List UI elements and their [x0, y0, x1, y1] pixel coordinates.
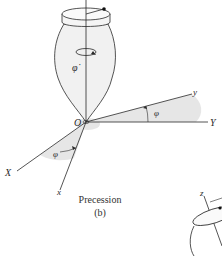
partial-top-body [190, 226, 194, 256]
precession-diagram: φ̇ O φ φ y Y X x Precession (b) z [0, 0, 222, 256]
origin-label: O [74, 117, 81, 128]
caption-label: (b) [94, 207, 106, 219]
axis-y-body-label: y [192, 87, 197, 97]
caption-title: Precession [79, 194, 122, 205]
top-body [55, 24, 116, 122]
partial-z-label: z [199, 188, 204, 198]
axis-x-body-label: x [56, 187, 61, 197]
axis-Y-fixed-label: Y [210, 117, 217, 128]
partial-top-cap [191, 203, 222, 230]
phi-angle-lower-label: φ [53, 149, 58, 159]
partial-arc [210, 198, 222, 202]
cap-marker-dot [102, 7, 106, 11]
axis-X-fixed-label: X [4, 167, 12, 178]
phi-angle-upper-label: φ [154, 108, 159, 118]
partial-marker-dot [218, 206, 221, 209]
